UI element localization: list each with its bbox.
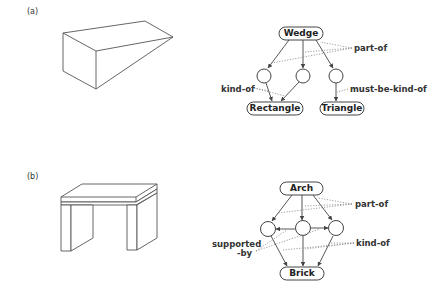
kind-of-label-b: kind-of xyxy=(356,238,390,248)
supported-by-label-line2: -by xyxy=(237,248,252,258)
arch-part-left xyxy=(261,222,276,237)
rectangle-node-label: Rectangle xyxy=(247,102,303,114)
brick-node-label: Brick xyxy=(280,267,324,279)
wedge-node-label: Wedge xyxy=(279,27,323,39)
part-of-label-b: part-of xyxy=(355,199,388,209)
part-node-middle xyxy=(296,69,310,83)
part-node-right xyxy=(329,69,343,83)
arch-part-right xyxy=(329,221,344,236)
arch-node-label: Arch xyxy=(280,182,323,194)
part-node-left xyxy=(257,69,271,83)
arch-graph xyxy=(256,182,354,280)
must-be-kind-of-label: must-be-kind-of xyxy=(350,84,427,94)
arch-drawing xyxy=(61,184,157,251)
kind-of-label-a: kind-of xyxy=(221,84,255,94)
triangle-node-label: Triangle xyxy=(320,102,364,114)
wedge-drawing xyxy=(63,21,173,89)
part-of-label-a: part-of xyxy=(354,43,387,53)
